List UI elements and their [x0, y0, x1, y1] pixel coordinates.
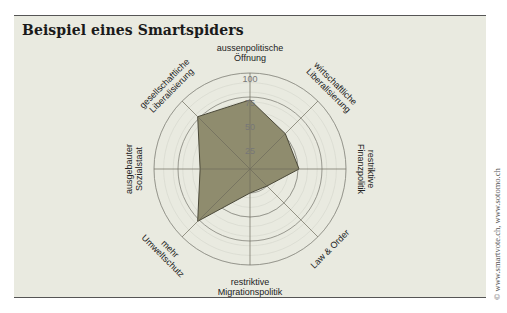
tick-label: 75	[245, 98, 255, 108]
tick-label: 100	[242, 74, 257, 84]
svg-text:Finanzpolitik: Finanzpolitik	[356, 144, 366, 195]
copyright-note: © www.smartvote.ch, www.sotomo.ch	[492, 168, 502, 300]
axis-label: restriktiveFinanzpolitik	[356, 144, 376, 195]
svg-text:restriktive: restriktive	[231, 277, 270, 287]
tick-label: 50	[245, 122, 255, 132]
axis-label: restriktiveMigrationspolitik	[218, 277, 283, 297]
smartspider-radar-chart: 255075100 aussenpolitischeÖffnungwirtsch…	[0, 0, 507, 313]
svg-text:restriktive: restriktive	[366, 150, 376, 189]
tick-label: 25	[245, 146, 255, 156]
svg-text:ausgebauter: ausgebauter	[124, 144, 134, 194]
svg-text:Sozialstaat: Sozialstaat	[134, 146, 144, 191]
svg-text:Öffnung: Öffnung	[234, 53, 266, 63]
svg-text:Migrationspolitik: Migrationspolitik	[218, 287, 283, 297]
axis-label: ausgebauterSozialstaat	[124, 144, 144, 194]
svg-text:aussenpolitische: aussenpolitische	[217, 43, 284, 53]
axis-label: aussenpolitischeÖffnung	[217, 43, 284, 63]
svg-text:Umweltschutz: Umweltschutz	[140, 233, 187, 280]
